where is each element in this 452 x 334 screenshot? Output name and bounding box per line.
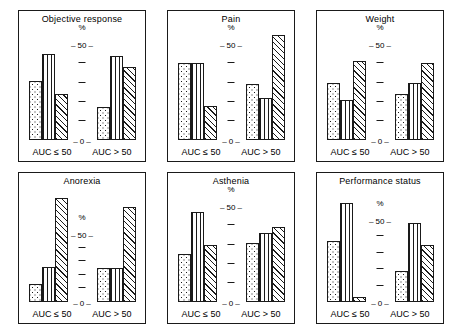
y-tick-mark	[228, 263, 235, 264]
bar-diagonal-hatch	[55, 198, 68, 302]
tick-value: 0	[378, 137, 382, 146]
bar-group	[244, 189, 286, 302]
y-tick-label: –0–	[371, 300, 388, 308]
bar-dotted	[29, 284, 42, 302]
y-tick-mark	[228, 224, 235, 225]
y-tick-mark	[377, 252, 384, 253]
tick-dash-left: –	[371, 299, 375, 308]
tick-value: 50	[78, 231, 87, 240]
bar-diagonal-hatch	[55, 94, 68, 140]
bar-diagonal-hatch	[421, 245, 434, 303]
chart-panel: Performance status%–0––50–AUC ≤ 50AUC > …	[316, 172, 444, 324]
bar-diagonal-hatch	[353, 297, 366, 302]
bar-dotted	[178, 63, 191, 140]
bar-vertical-lines	[42, 54, 55, 140]
bar-vertical-lines	[340, 100, 353, 140]
y-tick-mark	[79, 62, 86, 63]
tick-dash-right: –	[384, 299, 388, 308]
tick-dash-right: –	[235, 299, 239, 308]
bar-dotted	[178, 254, 191, 302]
bar-vertical-lines	[408, 83, 421, 141]
y-tick-mark	[228, 282, 235, 283]
plot-area: %–0––50–	[19, 27, 145, 140]
group-label-left: AUC ≤ 50	[172, 147, 230, 157]
bar-diagonal-hatch	[123, 67, 136, 140]
bar-diagonal-hatch	[421, 63, 434, 140]
bar-vertical-lines	[408, 223, 421, 302]
group-label-left: AUC ≤ 50	[321, 309, 379, 319]
tick-dash-left: –	[220, 203, 224, 212]
chart-panel: Pain%–0––50–AUC ≤ 50AUC > 50	[167, 10, 295, 162]
y-tick-mark	[79, 101, 86, 102]
tick-dash-right: –	[237, 41, 241, 50]
tick-dash-right: –	[237, 203, 241, 212]
tick-value: 50	[78, 41, 87, 50]
y-tick-mark	[79, 120, 86, 121]
bar-group	[27, 27, 69, 140]
plot-area: %–0––50–	[317, 189, 443, 302]
bar-vertical-lines	[259, 233, 272, 302]
tick-dash-right: –	[86, 299, 90, 308]
bar-dotted	[97, 107, 110, 140]
chart-panel: Asthenia%–0––50–AUC ≤ 50AUC > 50	[167, 172, 295, 324]
chart-panel: Anorexia%–0––50–AUC ≤ 50AUC > 50	[18, 172, 146, 324]
tick-dash-right: –	[88, 41, 92, 50]
bar-group	[393, 27, 435, 140]
y-tick-mark	[377, 285, 384, 286]
y-tick-mark	[79, 287, 86, 288]
bar-group	[95, 27, 137, 140]
group-label-left: AUC ≤ 50	[23, 309, 81, 319]
group-label-right: AUC > 50	[83, 147, 141, 157]
y-tick-mark	[79, 274, 86, 275]
bar-dotted	[97, 268, 110, 302]
y-tick-mark	[228, 82, 235, 83]
y-tick-mark	[377, 268, 384, 269]
tick-dash-right: –	[86, 137, 90, 146]
y-tick-label: –50–	[220, 204, 242, 212]
tick-value: 50	[227, 203, 236, 212]
bar-group	[95, 189, 137, 302]
group-label-right: AUC > 50	[232, 147, 290, 157]
tick-dash-left: –	[369, 217, 373, 226]
y-tick-mark	[377, 101, 384, 102]
y-tick-mark	[228, 101, 235, 102]
group-label-left: AUC ≤ 50	[172, 309, 230, 319]
bar-diagonal-hatch	[204, 245, 217, 303]
y-tick-mark	[377, 62, 384, 63]
tick-dash-left: –	[371, 137, 375, 146]
bar-group	[325, 27, 367, 140]
tick-value: 0	[229, 137, 233, 146]
bar-group	[27, 189, 69, 302]
bar-vertical-lines	[110, 56, 123, 140]
bar-vertical-lines	[42, 267, 55, 302]
bar-dotted	[246, 84, 259, 140]
tick-dash-right: –	[386, 41, 390, 50]
y-tick-mark	[377, 82, 384, 83]
y-tick-label: –50–	[71, 232, 93, 240]
y-tick-label: –50–	[369, 42, 391, 50]
tick-dash-left: –	[73, 299, 77, 308]
group-label-left: AUC ≤ 50	[23, 147, 81, 157]
y-tick-mark	[228, 62, 235, 63]
group-label-right: AUC > 50	[381, 309, 439, 319]
plot-area: %–0––50–	[317, 27, 443, 140]
bar-group	[393, 189, 435, 302]
bar-vertical-lines	[340, 203, 353, 302]
y-tick-label: –0–	[73, 138, 90, 146]
y-tick-label: –50–	[71, 42, 93, 50]
bar-vertical-lines	[191, 212, 204, 302]
tick-dash-left: –	[71, 231, 75, 240]
tick-dash-left: –	[222, 137, 226, 146]
bar-vertical-lines	[110, 268, 123, 302]
group-label-right: AUC > 50	[381, 147, 439, 157]
y-tick-label: –50–	[220, 42, 242, 50]
tick-value: 50	[227, 41, 236, 50]
panel-title: Anorexia	[19, 176, 145, 186]
tick-value: 0	[80, 137, 84, 146]
tick-value: 50	[376, 41, 385, 50]
bar-dotted	[395, 271, 408, 302]
y-tick-label: –0–	[222, 300, 239, 308]
y-tick-mark	[79, 260, 86, 261]
figure-panel-grid: Objective response%–0––50–AUC ≤ 50AUC > …	[0, 0, 452, 334]
plot-area: %–0––50–	[168, 27, 294, 140]
